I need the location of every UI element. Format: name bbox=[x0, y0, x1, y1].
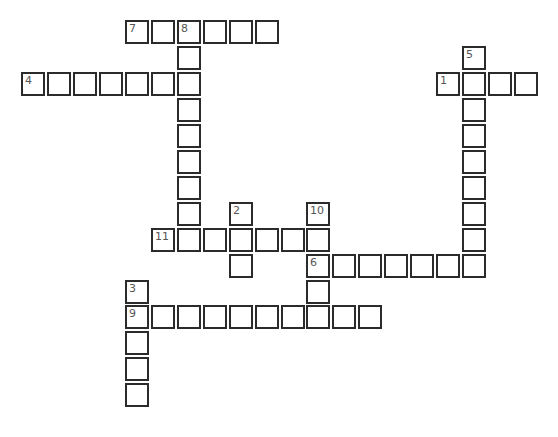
crossword-cell[interactable]: 10 bbox=[306, 202, 330, 226]
clue-number: 7 bbox=[129, 23, 136, 35]
crossword-cell[interactable] bbox=[255, 305, 279, 329]
crossword-cell[interactable] bbox=[151, 72, 175, 96]
crossword-cell[interactable] bbox=[151, 305, 175, 329]
crossword-cell[interactable] bbox=[177, 124, 201, 148]
crossword-cell[interactable] bbox=[462, 124, 486, 148]
crossword-cell[interactable] bbox=[203, 20, 227, 44]
crossword-cell[interactable] bbox=[462, 150, 486, 174]
crossword-cell[interactable]: 7 bbox=[125, 20, 149, 44]
crossword-cell[interactable]: 1 bbox=[436, 72, 460, 96]
crossword-cell[interactable]: 5 bbox=[462, 46, 486, 70]
crossword-cell[interactable] bbox=[462, 254, 486, 278]
crossword-cell[interactable] bbox=[125, 331, 149, 355]
crossword-cell[interactable] bbox=[203, 305, 227, 329]
crossword-cell[interactable] bbox=[436, 254, 460, 278]
clue-number: 3 bbox=[129, 283, 136, 295]
crossword-cell[interactable] bbox=[203, 228, 227, 252]
crossword-cell[interactable] bbox=[125, 72, 149, 96]
crossword-cell[interactable] bbox=[229, 20, 253, 44]
crossword-cell[interactable] bbox=[514, 72, 538, 96]
crossword-cell[interactable] bbox=[255, 228, 279, 252]
crossword-cell[interactable] bbox=[177, 176, 201, 200]
crossword-cell[interactable] bbox=[177, 98, 201, 122]
crossword-cell[interactable] bbox=[462, 176, 486, 200]
crossword-cell[interactable] bbox=[177, 72, 201, 96]
clue-number: 4 bbox=[25, 75, 32, 87]
crossword-cell[interactable] bbox=[358, 254, 382, 278]
crossword-cell[interactable]: 8 bbox=[177, 20, 201, 44]
clue-number: 6 bbox=[310, 257, 317, 269]
crossword-cell[interactable] bbox=[47, 72, 71, 96]
crossword-cell[interactable] bbox=[177, 305, 201, 329]
crossword-cell[interactable] bbox=[306, 305, 330, 329]
crossword-cell[interactable] bbox=[306, 228, 330, 252]
crossword-cell[interactable] bbox=[462, 228, 486, 252]
crossword-cell[interactable] bbox=[462, 72, 486, 96]
crossword-cell[interactable] bbox=[332, 254, 356, 278]
crossword-cell[interactable] bbox=[462, 98, 486, 122]
clue-number: 1 bbox=[440, 75, 447, 87]
crossword-cell[interactable] bbox=[229, 228, 253, 252]
clue-number: 9 bbox=[129, 308, 136, 320]
crossword-cell[interactable] bbox=[177, 150, 201, 174]
crossword-cell[interactable] bbox=[281, 305, 305, 329]
crossword-cell[interactable] bbox=[358, 305, 382, 329]
crossword-grid: 7845121061139 bbox=[0, 0, 558, 437]
crossword-cell[interactable]: 6 bbox=[306, 254, 330, 278]
crossword-cell[interactable]: 9 bbox=[125, 305, 149, 329]
crossword-cell[interactable] bbox=[281, 228, 305, 252]
crossword-cell[interactable] bbox=[462, 202, 486, 226]
crossword-cell[interactable] bbox=[332, 305, 356, 329]
crossword-cell[interactable] bbox=[177, 202, 201, 226]
clue-number: 10 bbox=[310, 205, 324, 217]
clue-number: 11 bbox=[155, 231, 169, 243]
crossword-cell[interactable]: 3 bbox=[125, 280, 149, 304]
crossword-cell[interactable] bbox=[384, 254, 408, 278]
crossword-cell[interactable] bbox=[151, 20, 175, 44]
clue-number: 5 bbox=[466, 49, 473, 61]
crossword-cell[interactable]: 4 bbox=[21, 72, 45, 96]
crossword-cell[interactable] bbox=[488, 72, 512, 96]
crossword-cell[interactable] bbox=[229, 305, 253, 329]
crossword-cell[interactable] bbox=[177, 46, 201, 70]
crossword-cell[interactable] bbox=[125, 383, 149, 407]
crossword-cell[interactable] bbox=[177, 228, 201, 252]
crossword-cell[interactable]: 2 bbox=[229, 202, 253, 226]
clue-number: 2 bbox=[233, 205, 240, 217]
crossword-cell[interactable] bbox=[73, 72, 97, 96]
crossword-cell[interactable] bbox=[99, 72, 123, 96]
crossword-cell[interactable] bbox=[125, 357, 149, 381]
crossword-cell[interactable]: 11 bbox=[151, 228, 175, 252]
crossword-cell[interactable] bbox=[229, 254, 253, 278]
crossword-cell[interactable] bbox=[255, 20, 279, 44]
crossword-cell[interactable] bbox=[306, 280, 330, 304]
crossword-cell[interactable] bbox=[410, 254, 434, 278]
clue-number: 8 bbox=[181, 23, 188, 35]
